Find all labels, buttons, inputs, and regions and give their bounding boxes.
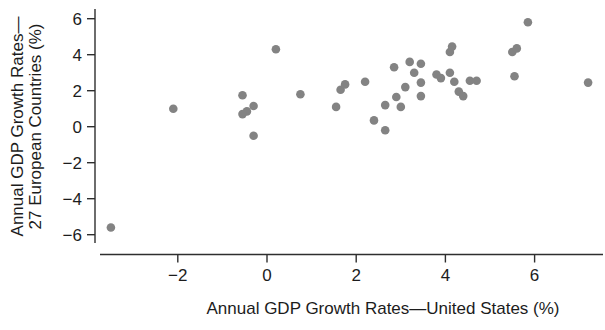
data-point bbox=[169, 104, 178, 113]
data-point bbox=[450, 77, 459, 86]
data-point bbox=[417, 78, 426, 87]
data-point bbox=[296, 90, 305, 99]
gdp-scatter-plot: 6420−2−4−6 −20246 Annual GDP Growth Rate… bbox=[0, 0, 605, 330]
data-point bbox=[513, 44, 522, 53]
y-tick-label: 6 bbox=[73, 10, 82, 29]
data-point bbox=[370, 116, 379, 125]
y-tick-label: −6 bbox=[63, 226, 82, 245]
x-tick-label: 0 bbox=[262, 266, 271, 285]
y-axis-title-line2: 27 European Countries (%) bbox=[26, 23, 45, 229]
y-tick-label: 0 bbox=[73, 118, 82, 137]
data-point bbox=[361, 77, 370, 86]
x-tick-label: 6 bbox=[530, 266, 539, 285]
data-point bbox=[401, 83, 410, 92]
y-tick-label: 4 bbox=[73, 46, 82, 65]
data-point bbox=[381, 101, 390, 110]
data-point bbox=[249, 102, 258, 111]
y-tick-label: −2 bbox=[63, 154, 82, 173]
x-axis-title: Annual GDP Growth Rates—United States (%… bbox=[206, 299, 559, 318]
scatter-points bbox=[107, 18, 593, 232]
x-tick-label: −2 bbox=[168, 266, 187, 285]
y-axis-ticks: 6420−2−4−6 bbox=[63, 10, 95, 245]
y-tick-label: 2 bbox=[73, 82, 82, 101]
data-point bbox=[107, 223, 116, 232]
data-point bbox=[397, 103, 406, 112]
data-point bbox=[238, 91, 247, 100]
data-point bbox=[249, 131, 258, 140]
data-point bbox=[272, 45, 281, 54]
data-point bbox=[417, 59, 426, 68]
data-point bbox=[238, 110, 247, 119]
data-point bbox=[510, 72, 519, 81]
data-point bbox=[405, 58, 414, 67]
data-point bbox=[446, 68, 455, 77]
data-point bbox=[524, 18, 533, 27]
data-point bbox=[341, 80, 350, 89]
x-tick-label: 4 bbox=[441, 266, 450, 285]
data-point bbox=[437, 74, 446, 83]
x-tick-label: 2 bbox=[351, 266, 360, 285]
data-point bbox=[381, 126, 390, 135]
data-point bbox=[448, 42, 457, 51]
data-point bbox=[390, 63, 399, 72]
data-point bbox=[472, 77, 481, 86]
data-point bbox=[417, 92, 426, 101]
y-axis-title-line1: Annual GDP Growth Rates— bbox=[8, 17, 27, 237]
gdp-scatter-figure: 6420−2−4−6 −20246 Annual GDP Growth Rate… bbox=[0, 0, 605, 330]
data-point bbox=[392, 93, 401, 102]
data-point bbox=[584, 78, 593, 87]
x-axis-ticks: −20246 bbox=[168, 255, 539, 286]
data-point bbox=[332, 103, 341, 112]
data-point bbox=[459, 92, 468, 101]
y-tick-label: −4 bbox=[63, 190, 82, 209]
data-point bbox=[410, 68, 419, 77]
